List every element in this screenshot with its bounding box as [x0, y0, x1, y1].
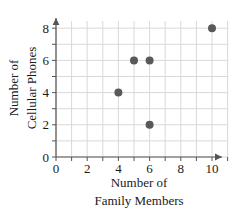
y-axis-title-line2: Cellular Phones	[24, 47, 39, 130]
x-axis-tick-label: 6	[146, 161, 153, 176]
x-axis-tick-label: 8	[178, 161, 185, 176]
data-point-marker	[146, 121, 154, 129]
y-axis-tick-label: 2	[43, 117, 50, 132]
data-point-marker	[146, 56, 154, 64]
x-axis-tick-label: 4	[115, 161, 122, 176]
plot-canvas: 0246810 02468 Number of Family Members N…	[0, 0, 232, 218]
x-axis-tick-label: 0	[53, 161, 60, 176]
data-point-marker	[130, 56, 138, 64]
x-axis-title-line1: Number of	[111, 175, 168, 190]
y-axis-tick-label: 0	[43, 150, 50, 165]
x-axis-tick-label: 2	[84, 161, 91, 176]
data-point-marker	[114, 89, 122, 97]
data-point-marker	[208, 24, 216, 32]
y-axis-tick-label: 6	[43, 53, 50, 68]
y-axis-tick-label: 4	[43, 85, 50, 100]
y-axis-tick-label: 8	[43, 21, 50, 36]
x-axis-title-line2: Family Members	[94, 193, 183, 208]
x-axis-tick-label: 10	[206, 161, 219, 176]
y-axis-title-line1: Number of	[6, 59, 21, 116]
scatter-plot-figure: 0246810 02468 Number of Family Members N…	[0, 0, 232, 218]
